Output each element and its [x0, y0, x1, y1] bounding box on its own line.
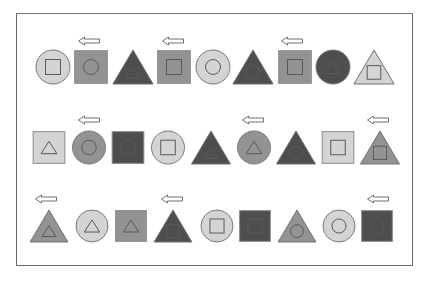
shape-item — [113, 50, 153, 84]
outer-square-icon — [322, 132, 354, 164]
shape-item — [112, 132, 144, 164]
shape-item — [201, 210, 233, 242]
outer-square-icon — [240, 211, 271, 242]
outer-circle-icon — [36, 50, 70, 84]
shape-item — [73, 131, 106, 164]
shape-item — [277, 131, 316, 164]
shape-item — [36, 50, 70, 84]
outer-circle-icon — [316, 50, 350, 84]
outer-square-icon — [362, 211, 393, 242]
shape-item — [154, 210, 192, 242]
shape-row-2 — [33, 116, 399, 164]
shape-item — [116, 211, 147, 242]
outer-square-icon — [112, 132, 144, 164]
outer-square-icon — [158, 51, 191, 84]
shape-item — [30, 210, 68, 242]
shape-item — [196, 50, 230, 84]
outer-square-icon — [116, 211, 147, 242]
shape-item — [279, 51, 312, 84]
shape-sequence-board — [0, 0, 428, 281]
outer-square-icon — [33, 132, 65, 164]
shape-item — [75, 51, 108, 84]
left-arrow-icon — [368, 195, 389, 203]
shape-item — [323, 210, 355, 242]
left-arrow-icon — [79, 116, 100, 124]
left-arrow-icon — [163, 37, 184, 45]
outer-circle-icon — [196, 50, 230, 84]
shape-item — [316, 50, 350, 84]
shape-item — [33, 132, 65, 164]
shape-item — [192, 131, 231, 164]
shape-item — [152, 131, 185, 164]
shape-item — [238, 131, 271, 164]
shape-row-1 — [36, 37, 394, 84]
outer-circle-icon — [323, 210, 355, 242]
outer-circle-icon — [73, 131, 106, 164]
outer-circle-icon — [76, 210, 108, 242]
left-arrow-icon — [368, 116, 389, 124]
shape-item — [322, 132, 354, 164]
shape-item — [278, 210, 316, 242]
left-arrow-icon — [36, 195, 57, 203]
left-arrow-icon — [243, 116, 264, 124]
outer-square-icon — [75, 51, 108, 84]
shape-item — [361, 131, 400, 164]
shape-item — [233, 50, 273, 84]
shape-item — [240, 211, 271, 242]
outer-square-icon — [279, 51, 312, 84]
left-arrow-icon — [282, 37, 303, 45]
left-arrow-icon — [79, 37, 100, 45]
left-arrow-icon — [162, 195, 183, 203]
shape-item — [354, 50, 394, 84]
shape-item — [362, 211, 393, 242]
outer-circle-icon — [152, 131, 185, 164]
shape-row-3 — [30, 195, 392, 242]
outer-circle-icon — [238, 131, 271, 164]
outer-circle-icon — [201, 210, 233, 242]
shape-item — [158, 51, 191, 84]
shape-item — [76, 210, 108, 242]
